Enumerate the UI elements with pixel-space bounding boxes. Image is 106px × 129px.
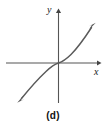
coordinate-plot: y x [0,0,106,108]
figure-caption: (d) [0,110,106,121]
x-axis-arrowhead-icon [97,60,102,65]
x-axis-label: x [93,66,99,77]
curve-upper-right-arrowhead-icon [88,23,95,30]
figure-container: y x (d) [0,0,106,129]
y-axis-label: y [46,4,52,15]
y-axis-arrowhead-icon [56,9,61,13]
plot-area: y x [0,0,106,108]
